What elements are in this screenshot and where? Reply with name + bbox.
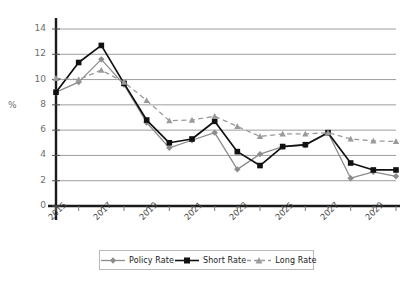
y-tick-label: 0	[24, 200, 46, 210]
y-tick-label: 8	[24, 99, 46, 109]
data-point	[144, 117, 150, 123]
series-line-policy-rate	[56, 59, 396, 178]
legend-swatch-long-rate	[246, 255, 272, 266]
data-point	[235, 149, 241, 155]
legend-item-policy-rate[interactable]: Policy Rate	[100, 255, 174, 266]
data-point	[280, 144, 286, 150]
chart-legend: Policy Rate Short Rate Long Rate	[99, 250, 314, 270]
chart-screenshot: % 02468101214 20152017201920212023202520…	[0, 0, 411, 295]
y-tick-label: 10	[24, 74, 46, 84]
legend-item-short-rate[interactable]: Short Rate	[174, 255, 246, 266]
data-point	[211, 113, 217, 119]
y-tick-label: 4	[24, 149, 46, 159]
legend-label-short-rate: Short Rate	[203, 256, 246, 265]
data-point	[99, 43, 105, 49]
data-point	[53, 89, 59, 95]
data-point	[167, 140, 173, 146]
data-point	[371, 167, 377, 173]
y-tick-label: 12	[24, 48, 46, 58]
data-point	[257, 163, 263, 169]
y-tick-label: 2	[24, 175, 46, 185]
legend-label-policy-rate: Policy Rate	[129, 256, 174, 265]
data-point	[189, 136, 195, 142]
legend-swatch-short-rate	[174, 255, 200, 266]
series-line-long-rate	[56, 70, 396, 141]
data-point	[393, 138, 399, 144]
data-point	[348, 160, 354, 166]
data-point	[303, 142, 309, 148]
line-chart: % 02468101214 20152017201920212023202520…	[0, 0, 411, 295]
data-point	[393, 167, 399, 173]
legend-swatch-policy-rate	[100, 255, 126, 266]
data-point	[143, 97, 149, 103]
legend-label-long-rate: Long Rate	[275, 256, 316, 265]
data-point	[98, 67, 104, 73]
legend-item-long-rate[interactable]: Long Rate	[246, 255, 316, 266]
data-point	[76, 60, 82, 66]
data-point	[212, 118, 218, 124]
y-tick-label: 6	[24, 124, 46, 134]
data-point	[393, 173, 399, 179]
data-point	[234, 123, 240, 129]
y-tick-label: 14	[24, 23, 46, 33]
